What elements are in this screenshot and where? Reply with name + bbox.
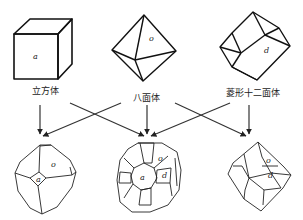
bottom-middle-face-a: a — [140, 173, 145, 182]
rhombic-dodecahedron-shape — [220, 12, 290, 80]
octahedron-face-label: o — [149, 34, 154, 43]
bottom-middle-face-o: o — [158, 154, 163, 163]
cube-shape — [14, 19, 72, 79]
bottom-middle-face-d: d — [162, 171, 167, 180]
arrow-dodecahedron-to-middle — [151, 103, 230, 136]
bottom-left-face-o: o — [51, 160, 56, 169]
bottom-left-face-a: a — [36, 175, 41, 184]
cube-label: 立方体 — [32, 84, 59, 97]
rhombic-dodecahedron-label: 菱形十二面体 — [226, 86, 280, 99]
octahedron-label: 八面体 — [133, 91, 160, 104]
cube-octahedron-combination — [15, 145, 76, 214]
octahedron-shape — [112, 15, 176, 81]
bottom-right-face-d: d — [268, 171, 273, 180]
arrow-octahedron-to-right — [175, 103, 246, 136]
arrows — [40, 103, 249, 136]
cube-octahedron-dodecahedron-combination — [117, 143, 181, 212]
crystal-forms-diagram: a o d — [0, 0, 303, 220]
cube-face-label: a — [33, 52, 38, 61]
bottom-right-face-o: o — [266, 156, 271, 165]
dodecahedron-octahedron-combination — [228, 142, 291, 211]
rhombic-dodecahedron-face-label: d — [264, 46, 269, 55]
